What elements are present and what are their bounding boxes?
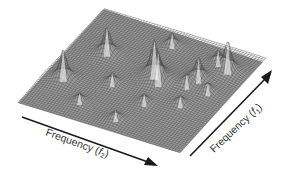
f2-axis-label: Frequency (f2): [44, 126, 111, 161]
arrowhead-icon: [144, 157, 158, 166]
spectrum-figure: Frequency (f2) Frequency (f1): [0, 0, 286, 174]
